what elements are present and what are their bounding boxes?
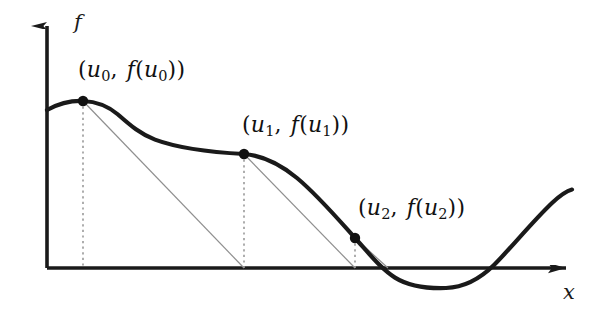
point-marker-u1 <box>239 149 249 159</box>
u2-open-paren-2: ( <box>415 195 424 220</box>
u0-comma: , <box>110 57 119 82</box>
u2-open-paren: ( <box>358 195 367 220</box>
point-label-u1: (u1, f(u1)) <box>242 114 349 139</box>
u1-open-paren-2: ( <box>299 112 308 137</box>
u2-var-2: u <box>424 195 438 220</box>
figure-canvas <box>0 0 612 314</box>
u1-var: u <box>251 112 265 137</box>
u2-var: u <box>367 195 381 220</box>
point-marker-u2 <box>350 233 360 243</box>
y-axis-label: f <box>74 12 82 33</box>
u1-var-2: u <box>308 112 322 137</box>
u1-comma: , <box>274 112 283 137</box>
u0-var: u <box>87 57 101 82</box>
u0-subscript-2: 0 <box>158 68 167 84</box>
u1-subscript-2: 1 <box>322 123 331 139</box>
point-label-u2: (u2, f(u2)) <box>358 197 465 222</box>
tangent-line-u0 <box>83 101 244 268</box>
u1-f: f <box>291 112 299 137</box>
u0-f: f <box>127 57 135 82</box>
tangent-line-u1 <box>244 154 355 268</box>
u0-close-paren: ) <box>176 57 185 82</box>
x-axis-label: x <box>563 282 575 303</box>
u1-open-paren: ( <box>242 112 251 137</box>
u0-open-paren-2: ( <box>135 57 144 82</box>
newton-method-figure: f x (u0, f(u0)) (u1, f(u1)) (u2, f(u2)) <box>0 0 612 314</box>
u1-close-paren: ) <box>340 112 349 137</box>
point-label-u0: (u0, f(u0)) <box>78 59 185 84</box>
u2-f: f <box>407 195 415 220</box>
u0-var-2: u <box>144 57 158 82</box>
u2-close-paren: ) <box>456 195 465 220</box>
point-marker-u0 <box>78 96 88 106</box>
u2-subscript-2: 2 <box>438 206 447 222</box>
u2-comma: , <box>390 195 399 220</box>
u0-open-paren: ( <box>78 57 87 82</box>
